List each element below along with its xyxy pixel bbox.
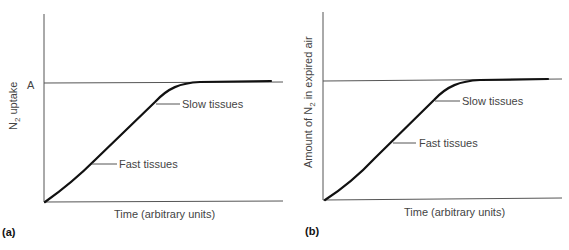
chart-b-x-label: Time (arbitrary units) — [404, 206, 505, 218]
chart-b-y-label: Amount of N2 in expired air — [302, 36, 317, 168]
chart-a-slow-label: Slow tissues — [182, 98, 244, 110]
chart-b-slow-label: Slow tissues — [462, 95, 524, 107]
chart-a-y-label-rest: uptake — [7, 82, 19, 118]
chart-a-fast-label: Fast tissues — [119, 158, 178, 170]
chart-a-panel-label: (a) — [2, 226, 16, 238]
chart-a-x-axis — [44, 201, 283, 202]
chart-a: Fast tissues Slow tissues A Time (arbitr… — [2, 14, 283, 238]
chart-a-x-label: Time (arbitrary units) — [114, 208, 215, 220]
chart-b-x-axis — [323, 198, 562, 200]
chart-a-y-label-main: N — [7, 122, 19, 130]
chart-b-y-label-main: Amount of N — [302, 107, 314, 168]
chart-b-fast-label: Fast tissues — [419, 137, 478, 149]
chart-b-y-label-rest: in expired air — [302, 36, 314, 102]
chart-a-y-label: N2 uptake — [7, 82, 22, 131]
chart-a-tick-a: A — [27, 79, 35, 91]
chart-b-panel-label: (b) — [305, 225, 319, 237]
chart-b: Fast tissues Slow tissues Time (arbitrar… — [302, 12, 562, 237]
